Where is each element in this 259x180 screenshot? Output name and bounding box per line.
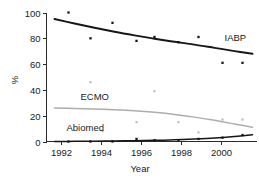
data-point <box>222 119 224 121</box>
y-tick-label: 20 <box>30 111 41 122</box>
data-point <box>221 62 223 64</box>
data-point <box>153 139 155 141</box>
y-tick-label: 60 <box>30 59 41 70</box>
data-point <box>67 11 69 13</box>
data-point <box>154 90 156 92</box>
data-point <box>111 140 113 142</box>
x-axis-title: Year <box>130 163 149 174</box>
data-point <box>90 81 92 83</box>
data-point <box>67 140 69 142</box>
data-point <box>178 121 180 123</box>
data-point <box>197 138 199 140</box>
data-point <box>198 131 200 133</box>
y-tick-label: 100 <box>25 8 41 19</box>
x-tick-label: 2000 <box>211 147 232 158</box>
data-point <box>136 121 138 123</box>
data-point <box>177 41 179 43</box>
data-point <box>111 22 113 24</box>
data-point <box>197 36 199 38</box>
data-point <box>221 136 223 138</box>
data-point <box>242 119 244 121</box>
series-label-abiomed: Abiomed <box>67 122 105 133</box>
data-point <box>177 139 179 141</box>
x-tick-label: 1992 <box>51 147 72 158</box>
y-axis-title: % <box>9 75 20 84</box>
y-tick-label: 0 <box>35 137 40 148</box>
x-axis-tick-labels: 19921994199619982000 <box>51 147 232 158</box>
x-tick-label: 1994 <box>91 147 112 158</box>
data-point <box>135 138 137 140</box>
y-tick-label: 40 <box>30 85 41 96</box>
data-point <box>135 40 137 42</box>
data-point <box>89 140 91 142</box>
data-point <box>153 36 155 38</box>
data-point <box>89 37 91 39</box>
data-points-iabp <box>67 11 243 64</box>
y-tick-label: 80 <box>30 33 41 44</box>
data-points-ecmo <box>90 81 244 133</box>
y-axis-tick-labels: 020406080100 <box>25 8 41 148</box>
scatter-plot: 020406080100 19921994199619982000 IABP E… <box>0 0 259 180</box>
data-point <box>241 134 243 136</box>
x-tick-label: 1996 <box>131 147 152 158</box>
chart-container: 020406080100 19921994199619982000 IABP E… <box>0 0 259 180</box>
x-tick-label: 1998 <box>171 147 192 158</box>
data-point <box>241 62 243 64</box>
series-label-ecmo: ECMO <box>81 91 110 102</box>
series-label-iabp: IABP <box>225 32 247 43</box>
